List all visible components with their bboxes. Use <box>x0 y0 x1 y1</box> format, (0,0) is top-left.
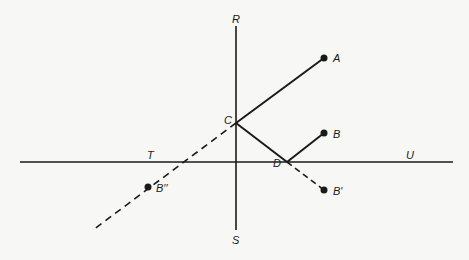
dashed-c-to-b-double-prime <box>93 123 236 230</box>
reflection-diagram: R S T U A B B′ B′′ C D <box>0 0 469 260</box>
point-b-double-prime-dot <box>145 184 152 191</box>
point-b-prime-dot <box>321 187 328 194</box>
point-b-dot <box>321 130 328 137</box>
ray-a-to-c <box>236 58 324 123</box>
point-a-dot <box>321 55 328 62</box>
label-t: T <box>147 149 155 161</box>
label-b: B <box>333 128 340 140</box>
label-r: R <box>232 13 240 25</box>
label-c: C <box>224 114 232 126</box>
label-u: U <box>406 149 414 161</box>
label-s: S <box>232 234 240 246</box>
label-a: A <box>332 52 340 64</box>
label-b-prime: B′ <box>333 185 343 197</box>
ray-d-to-b <box>287 133 324 162</box>
label-d: D <box>273 157 281 169</box>
dashed-d-to-b-prime <box>287 162 324 190</box>
label-b-double-prime: B′′ <box>156 182 168 194</box>
